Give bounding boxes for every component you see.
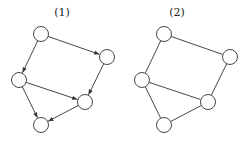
graph-2-node-e [157, 118, 172, 133]
graph-1-node-b [100, 50, 115, 65]
graph-2-node-b [223, 50, 238, 65]
graph-2-node-d [201, 95, 216, 110]
graph-2-edge-d-e [171, 105, 201, 121]
graph-1-edge-a-c [22, 41, 37, 73]
graph-diagram: (1) (2) [0, 0, 249, 141]
graph-2-node-c [135, 73, 150, 88]
graph-1-edge-c-d [26, 82, 77, 99]
graph-1-label: (1) [54, 6, 70, 19]
graph-1-node-e [34, 118, 49, 133]
graph-1-edge-d-e [48, 105, 78, 121]
graph-1-node-a [34, 27, 49, 42]
graph-2-edge-c-e [145, 87, 160, 118]
graph-2-edge-b-d [212, 64, 227, 95]
graph-1-node-d [78, 95, 93, 110]
graph-1-edge-c-e [22, 87, 37, 118]
graph-2-edge-a-c [145, 41, 160, 73]
graph-1-edge-a-b [48, 36, 99, 54]
graph-2-edge-c-d [149, 82, 200, 99]
graph-2-edge-a-b [171, 36, 222, 54]
graph-1-node-c [12, 73, 27, 88]
graph-2-label: (2) [169, 6, 185, 19]
graph-2-node-a [157, 27, 172, 42]
graph-1-edge-b-d [89, 64, 104, 95]
